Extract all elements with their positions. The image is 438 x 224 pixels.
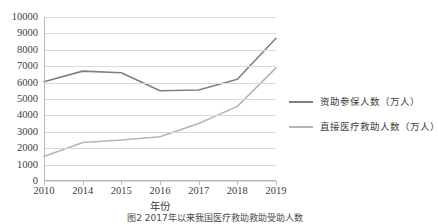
gridline bbox=[44, 17, 276, 18]
gridline bbox=[44, 148, 276, 149]
x-axis-tick-label: 2010 bbox=[34, 185, 55, 197]
gridline bbox=[44, 165, 276, 166]
gridline bbox=[44, 66, 276, 67]
legend-item-2[interactable]: 直接医疗救助人数（万人） bbox=[289, 121, 430, 133]
gridline bbox=[44, 50, 276, 51]
y-axis-tick-label: 9000 bbox=[17, 28, 38, 38]
plot-area bbox=[44, 17, 276, 181]
x-axis-tick-label: 2019 bbox=[266, 185, 287, 197]
x-axis-tick-label: 2015 bbox=[111, 185, 132, 197]
y-axis-tick-label: 5000 bbox=[17, 94, 38, 104]
y-axis-line bbox=[44, 17, 45, 181]
y-axis-tick-label: 7000 bbox=[17, 61, 38, 71]
y-axis-tick-label: 2000 bbox=[17, 143, 38, 153]
y-axis-tick-label: 10000 bbox=[12, 12, 38, 22]
legend-swatch-icon bbox=[289, 101, 313, 103]
legend-label: 直接医疗救助人数（万人） bbox=[320, 121, 438, 133]
gridline bbox=[44, 99, 276, 100]
figure-caption: 图2 2017年以来我国医疗救助救助受助人数 bbox=[0, 213, 430, 224]
y-axis-tick-label: 8000 bbox=[17, 45, 38, 55]
legend-label: 资助参保人数（万人） bbox=[320, 96, 420, 108]
gridline bbox=[44, 83, 276, 84]
y-axis-tick-label: 6000 bbox=[17, 78, 38, 88]
x-axis-title: 年份 bbox=[44, 198, 276, 213]
x-axis-labels: 2010201420152016201720182019 bbox=[44, 185, 276, 199]
legend-swatch-icon bbox=[289, 126, 313, 128]
x-axis-tick-label: 2014 bbox=[72, 185, 93, 197]
y-axis-labels: 1000090008000700060005000400030002000100… bbox=[0, 17, 40, 181]
x-axis-tick-label: 2018 bbox=[227, 185, 248, 197]
chart-legend: 资助参保人数（万人）直接医疗救助人数（万人） bbox=[289, 96, 430, 146]
gridline bbox=[44, 115, 276, 116]
legend-item-1[interactable]: 资助参保人数（万人） bbox=[289, 96, 430, 108]
gridline bbox=[44, 132, 276, 133]
y-axis-tick-label: 1000 bbox=[17, 160, 38, 170]
x-axis-tick-label: 2017 bbox=[188, 185, 209, 197]
x-axis-tick-label: 2016 bbox=[150, 185, 171, 197]
series-line-2 bbox=[44, 68, 276, 157]
gridline bbox=[44, 33, 276, 34]
y-axis-tick-label: 3000 bbox=[17, 127, 38, 137]
y-axis-tick-label: 4000 bbox=[17, 110, 38, 120]
